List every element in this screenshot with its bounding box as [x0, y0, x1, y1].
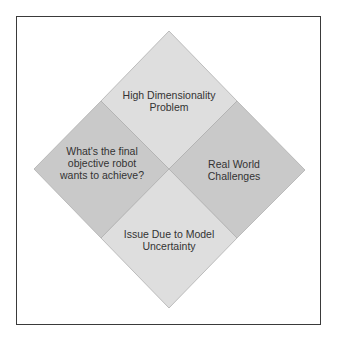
- quadrant-right-label: Real World Challenges: [208, 158, 261, 182]
- quadrant-right-line-1: Real World: [208, 158, 261, 170]
- quadrant-left-line-1: What's the final: [60, 145, 144, 157]
- quadrant-diamond: [0, 0, 340, 341]
- quadrant-left-label: What's the final objective robot wants t…: [60, 145, 144, 181]
- quadrant-left-line-3: wants to achieve?: [60, 169, 144, 181]
- quadrant-top-line-1: High Dimensionality: [123, 89, 216, 101]
- quadrant-left-line-2: objective robot: [60, 157, 144, 169]
- quadrant-bottom-label: Issue Due to Model Uncertainty: [124, 228, 214, 252]
- quadrant-top-label: High Dimensionality Problem: [123, 89, 216, 113]
- quadrant-right-line-2: Challenges: [208, 170, 261, 182]
- quadrant-bottom-line-2: Uncertainty: [124, 240, 214, 252]
- quadrant-top-line-2: Problem: [123, 101, 216, 113]
- quadrant-bottom-line-1: Issue Due to Model: [124, 228, 214, 240]
